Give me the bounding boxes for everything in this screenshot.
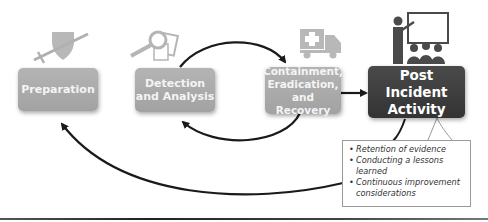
presenter-audience-icon <box>390 10 450 64</box>
magnifier-document-icon <box>128 28 184 64</box>
phase-containment-label-line2: Eradication, <box>263 78 343 91</box>
arrow-detection-to-containment <box>180 42 285 67</box>
ambulance-truck-icon <box>300 29 342 59</box>
phase-post-incident-label-line1: Post Incident <box>368 67 465 101</box>
callout-item: Retention of evidence <box>349 144 466 155</box>
phase-preparation-label: Preparation <box>21 83 95 96</box>
phase-containment-label-line1: Containment, <box>263 65 343 78</box>
shield-sword-icon <box>30 30 92 65</box>
phase-containment-label-line3: and Recovery <box>263 91 343 117</box>
incident-response-diagram: Preparation Detection and Analysis Conta… <box>0 0 488 222</box>
phase-preparation: Preparation <box>18 68 98 111</box>
arrow-post-to-callout-line <box>393 119 405 141</box>
phase-detection-analysis: Detection and Analysis <box>135 68 215 112</box>
post-incident-callout: Retention of evidence Conducting a lesso… <box>342 140 471 207</box>
phase-detection-label-line1: Detection <box>136 77 215 90</box>
bottom-rule <box>0 218 488 220</box>
phase-detection-label-line2: and Analysis <box>136 90 215 103</box>
callout-item: Continuous improvement considerations <box>349 177 466 199</box>
phase-post-incident-label-line2: Activity <box>368 101 465 118</box>
callout-item: Conducting a lessons learned <box>349 155 466 177</box>
phase-post-incident: Post Incident Activity <box>368 66 465 118</box>
callout-pointer <box>428 118 452 140</box>
phase-containment: Containment, Eradication, and Recovery <box>265 67 341 114</box>
arrow-containment-to-detection <box>183 113 300 140</box>
